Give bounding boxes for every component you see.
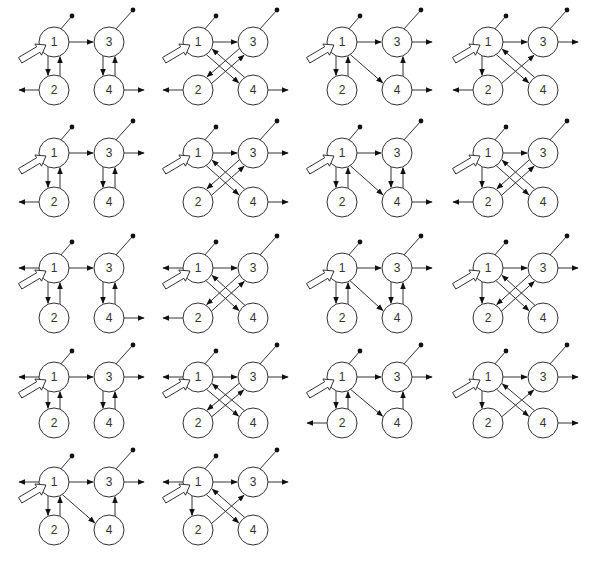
edge-1-to-4 [62,495,94,523]
node-label: 1 [195,261,202,275]
pin-dot-icon [419,234,424,239]
network-diagram-2: 1234 [163,8,289,105]
pin-dot-icon [565,8,570,13]
edge-1-to-4 [350,55,382,83]
network-diagram-4: 1234 [453,8,579,105]
node-label: 2 [339,83,346,97]
node-label: 3 [106,475,113,489]
pin-node-1 [204,456,216,470]
edge-2-to-3 [212,390,244,417]
node-label: 1 [51,35,58,49]
node-label: 2 [195,83,202,97]
pin-node-1 [494,351,506,365]
node-label: 2 [485,311,492,325]
pin-dot-icon [275,234,280,239]
network-diagram-8: 1234 [453,119,570,217]
node-label: 2 [195,311,202,325]
edge-2-to-3 [212,55,244,83]
input-arrow-icon [19,270,47,289]
network-diagram-14: 1234 [163,343,289,438]
node-label: 1 [339,35,346,49]
input-arrow-icon [307,270,335,289]
node-label: 4 [540,311,547,325]
pin-node-1 [348,16,360,30]
pin-node-3 [259,450,277,470]
edge-1-to-4 [206,55,238,83]
node-label: 1 [51,146,58,160]
node-label: 3 [250,475,257,489]
pin-node-3 [115,236,133,256]
input-arrow-icon [307,155,335,174]
input-arrow-icon [163,379,191,398]
node-label: 4 [394,311,401,325]
pin-dot-icon [565,234,570,239]
pin-dot-icon [70,14,75,19]
node-label: 2 [51,311,58,325]
pin-dot-icon [70,349,75,354]
network-diagram-15: 1234 [307,343,433,438]
node-label: 3 [394,35,401,49]
pin-dot-icon [214,349,219,354]
input-arrow-icon [163,155,191,174]
node-label: 2 [485,83,492,97]
node-label: 4 [540,83,547,97]
pin-dot-icon [131,8,136,13]
pin-node-3 [403,10,421,30]
pin-dot-icon [504,240,509,245]
pin-node-1 [348,351,360,365]
edge-1-to-4 [496,55,528,83]
network-diagram-13: 1234 [19,343,145,438]
pin-node-3 [549,121,567,141]
edge-4-to-1 [502,49,534,77]
node-label: 1 [195,370,202,384]
pin-node-1 [204,127,216,141]
edge-4-to-1 [212,384,244,411]
node-label: 1 [339,370,346,384]
node-label: 3 [106,370,113,384]
node-label: 4 [394,195,401,209]
node-label: 2 [195,195,202,209]
node-label: 3 [540,35,547,49]
node-label: 3 [250,35,257,49]
node-label: 2 [51,416,58,430]
node-label: 1 [195,475,202,489]
pin-dot-icon [419,8,424,13]
network-diagram-7: 1234 [307,119,433,217]
pin-node-1 [60,456,72,470]
network-diagram-3: 1234 [307,8,433,105]
input-arrow-icon [163,484,191,503]
pin-node-3 [403,236,421,256]
node-label: 1 [485,146,492,160]
pin-dot-icon [565,343,570,348]
input-arrow-icon [453,155,481,174]
node-label: 1 [485,370,492,384]
pin-node-1 [204,16,216,30]
node-label: 2 [51,195,58,209]
pin-node-1 [204,351,216,365]
network-diagram-6: 1234 [163,119,289,217]
node-label: 3 [540,146,547,160]
node-label: 1 [195,35,202,49]
pin-dot-icon [214,14,219,19]
node-label: 2 [195,523,202,537]
node-label: 3 [250,261,257,275]
pin-node-3 [259,345,277,365]
node-label: 1 [51,370,58,384]
node-label: 1 [485,261,492,275]
node-label: 1 [51,475,58,489]
pin-node-1 [494,127,506,141]
node-label: 2 [485,416,492,430]
pin-node-1 [494,16,506,30]
node-label: 1 [485,35,492,49]
pin-node-3 [115,121,133,141]
node-label: 4 [106,311,113,325]
pin-dot-icon [70,454,75,459]
pin-node-3 [549,236,567,256]
pin-node-3 [549,345,567,365]
pin-dot-icon [275,343,280,348]
pin-node-1 [60,127,72,141]
pin-dot-icon [214,454,219,459]
node-label: 4 [540,195,547,209]
pin-node-3 [115,450,133,470]
network-diagram-18: 1234 [163,448,289,545]
